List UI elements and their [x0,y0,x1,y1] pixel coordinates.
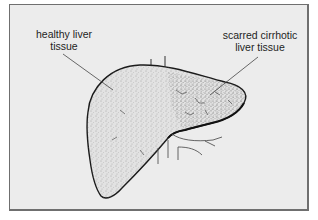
label-healthy-line2: tissue [28,40,100,52]
cirrhotic-region [168,72,246,130]
leader-line-healthy [63,54,113,90]
label-healthy-line1: healthy liver [28,28,100,40]
label-cirrhotic-line1: scarred cirrhotic [216,29,304,41]
label-cirrhotic-line2: liver tissue [216,41,304,53]
label-scarred-cirrhotic-tissue: scarred cirrhotic liver tissue [216,29,304,53]
label-healthy-liver-tissue: healthy liver tissue [28,28,100,52]
